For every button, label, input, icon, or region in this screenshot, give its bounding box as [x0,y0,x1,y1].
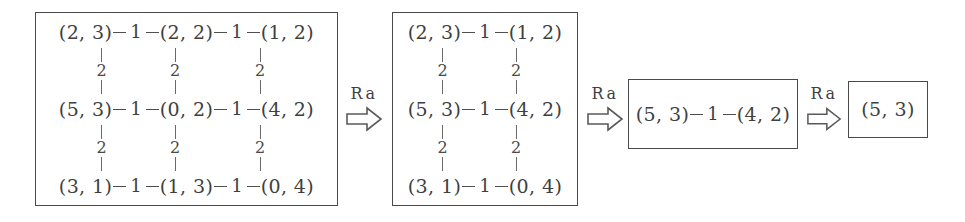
graph-node: (1, 3) [159,177,214,196]
vertical-edge: 2 [218,119,303,177]
edge-line [462,32,475,33]
edge-line [495,32,508,33]
edge-line [260,48,261,62]
edge-line [175,48,176,62]
graph-node: (2, 3) [407,23,462,42]
graph-node: (1, 2) [508,23,563,42]
vertical-edge: 2 [474,119,559,177]
edge-weight: 1 [126,23,145,41]
graph-node: (5, 3) [860,100,915,119]
graph-stage-2: (2, 3) 1 (1, 2) 2 2 (5, 3) [393,13,577,205]
edge-line [146,32,159,33]
horizontal-edge: 1 [214,177,259,195]
edge-line [247,109,260,110]
graph-node: (2, 2) [159,23,214,42]
stage-box-2: (2, 3) 1 (1, 2) 2 2 (5, 3) [392,12,578,206]
edge-line [175,157,176,171]
graph-row: (5, 3) 1 (0, 2) 1 (4, 2) [58,100,315,119]
edge-line [146,186,159,187]
graph-node: (0, 4) [508,177,563,196]
edge-line [462,109,475,110]
vertical-edge: 2 [412,42,474,100]
edge-line [214,32,227,33]
vertical-edge-band: 2 2 [412,42,559,100]
edge-line [516,48,517,62]
edge-weight: 2 [96,62,106,80]
transition-arrow-3: Ra [802,84,846,134]
right-arrow-icon [345,106,383,132]
right-arrow-icon [586,106,624,132]
horizontal-edge: 1 [113,177,158,195]
right-arrow-icon [806,106,842,132]
edge-weight: 1 [703,105,722,123]
stage-box-1: (2, 3) 1 (2, 2) 1 (1, 2) 2 2 [35,12,338,206]
edge-line [146,109,159,110]
edge-weight: 2 [437,62,447,80]
graph-node: (5, 3) [58,100,113,119]
graph-row: (3, 1) 1 (1, 3) 1 (0, 4) [58,177,315,196]
edge-line [175,80,176,94]
graph-row: (2, 3) 1 (1, 2) [407,23,563,42]
horizontal-edge: 1 [462,23,507,41]
vertical-edge: 2 [218,42,303,100]
transition-arrow-1: Ra [341,84,387,134]
graph-node: (0, 4) [260,177,315,196]
edge-weight: 1 [227,100,246,118]
edge-weight: 2 [511,62,521,80]
edge-line [247,32,260,33]
edge-line [175,125,176,139]
edge-line [113,186,126,187]
graph-node: (5, 3) [635,105,690,124]
edge-line [101,157,102,171]
edge-line [442,157,443,171]
edge-line [101,80,102,94]
edge-weight: 1 [126,177,145,195]
edge-line [442,48,443,62]
edge-weight: 2 [511,139,521,157]
edge-line [214,109,227,110]
edge-line [442,80,443,94]
arrow-label: Ra [811,86,838,102]
horizontal-edge: 1 [214,23,259,41]
transition-arrow-2: Ra [582,84,628,134]
edge-line [495,109,508,110]
edge-weight: 1 [475,177,494,195]
graph-stage-3: (5, 3) 1 (4, 2) [629,80,797,148]
edge-line [101,125,102,139]
vertical-edge: 2 [71,42,133,100]
graph-node: (3, 1) [58,177,113,196]
graph-row: (5, 3) 1 (4, 2) [635,105,791,124]
graph-node: (3, 1) [407,177,462,196]
graph-stage-4: (5, 3) [849,82,927,137]
edge-weight: 1 [227,23,246,41]
vertical-edge: 2 [133,119,218,177]
graph-node: (5, 3) [407,100,462,119]
horizontal-edge: 1 [462,177,507,195]
edge-line [214,186,227,187]
horizontal-edge: 1 [113,100,158,118]
edge-line [113,32,126,33]
edge-line [113,109,126,110]
edge-line [260,157,261,171]
stage-box-3: (5, 3) 1 (4, 2) [628,79,798,149]
edge-weight: 1 [227,177,246,195]
edge-line [442,125,443,139]
edge-line [516,125,517,139]
arrow-label: Ra [592,86,619,102]
horizontal-edge: 1 [690,105,735,123]
vertical-edge-band: 2 2 [412,119,559,177]
graph-row: (5, 3) [860,100,915,119]
vertical-edge-band: 2 2 2 [71,119,303,177]
graph-row: (5, 3) 1 (4, 2) [407,100,563,119]
edge-weight: 2 [255,139,265,157]
edge-line [723,114,736,115]
graph-node: (4, 2) [508,100,563,119]
edge-line [516,80,517,94]
edge-weight: 2 [255,62,265,80]
edge-line [690,114,703,115]
vertical-edge: 2 [474,42,559,100]
vertical-edge: 2 [133,42,218,100]
edge-line [516,157,517,171]
edge-weight: 2 [170,62,180,80]
edge-line [260,125,261,139]
